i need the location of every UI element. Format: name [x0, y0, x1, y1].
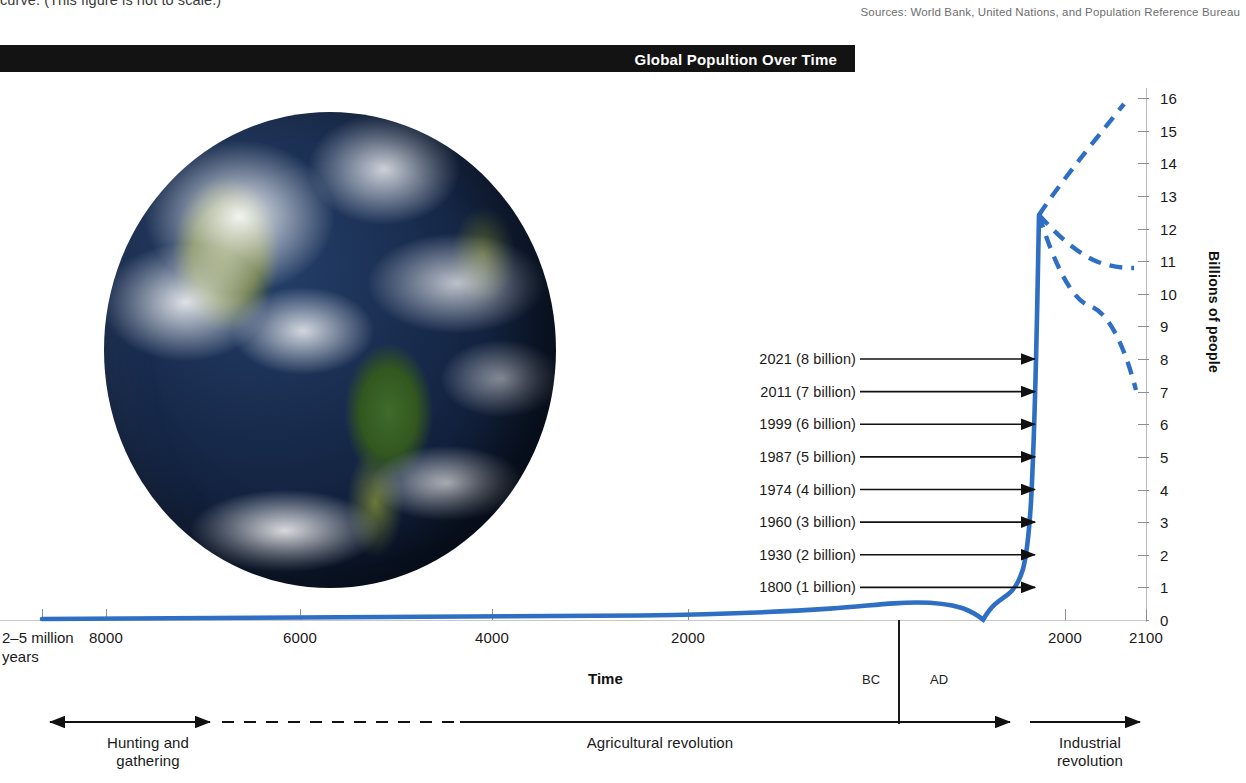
high-projection-curve	[1039, 104, 1124, 215]
historical-population-curve	[42, 215, 1039, 620]
population-figure: curve. (This figure is not to scale.) So…	[0, 0, 1246, 783]
chart-vector-overlay	[0, 0, 1246, 783]
low-projection-curve	[1039, 215, 1136, 390]
